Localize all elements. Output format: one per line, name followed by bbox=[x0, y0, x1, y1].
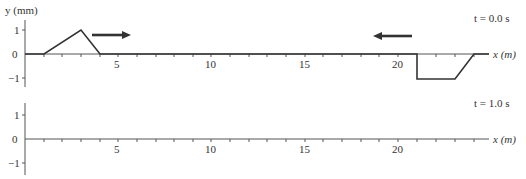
right-arrow-icon bbox=[92, 31, 131, 39]
x-tick-label: 20 bbox=[392, 58, 404, 70]
x-tick-label: 15 bbox=[299, 143, 311, 155]
time-label: t = 0.0 s bbox=[474, 12, 510, 24]
panel-t1: 1 0 −1 5 10 15 20 x (m) t = 1.0 s bbox=[8, 97, 516, 175]
left-arrow-icon bbox=[373, 32, 412, 40]
y-tick-label: 1 bbox=[14, 109, 20, 121]
x-axis-label: x (m) bbox=[492, 133, 516, 146]
x-tick-label: 15 bbox=[299, 58, 311, 70]
y-tick-label: −1 bbox=[8, 72, 20, 84]
wave-pulse-diagram: y (mm) 1 0 −1 5 10 15 20 x (m) t = 0.0 s bbox=[0, 0, 526, 179]
y-tick-label: 1 bbox=[14, 24, 20, 36]
panel-t0: y (mm) 1 0 −1 5 10 15 20 x (m) t = 0.0 s bbox=[5, 4, 516, 87]
time-label: t = 1.0 s bbox=[474, 97, 510, 109]
x-tick-label: 5 bbox=[114, 143, 120, 155]
y-tick-label: 0 bbox=[12, 133, 18, 145]
y-axis-label: y (mm) bbox=[5, 4, 38, 17]
x-tick-label: 10 bbox=[205, 143, 217, 155]
x-tick-label: 5 bbox=[114, 58, 120, 70]
x-tick-label: 20 bbox=[392, 143, 404, 155]
x-axis-label: x (m) bbox=[492, 48, 516, 61]
y-tick-label: 0 bbox=[12, 48, 18, 60]
x-tick-label: 10 bbox=[205, 58, 217, 70]
y-tick-label: −1 bbox=[8, 157, 20, 169]
